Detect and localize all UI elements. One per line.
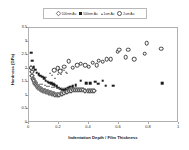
data-point	[102, 79, 105, 82]
x-tick-label: 0.4	[81, 125, 95, 129]
data-point	[105, 84, 108, 87]
chart-legend: 100nm Au 500nm Au 1um Au 2um Au	[43, 8, 147, 19]
data-point	[69, 87, 71, 89]
y-tick-label: 0.5	[13, 106, 27, 110]
data-point	[95, 63, 100, 68]
legend-marker-open-triangle-icon	[101, 13, 103, 15]
y-tick-label: 2	[13, 66, 27, 70]
y-tick-label: 0	[13, 120, 27, 124]
data-point	[117, 47, 122, 52]
data-point	[97, 82, 100, 85]
data-point	[58, 69, 63, 74]
data-point	[66, 59, 71, 64]
data-point	[159, 46, 164, 51]
x-axis-title: Indentation Depth / Film Thickness	[28, 135, 178, 140]
legend-entry-0: 100nm Au	[56, 11, 76, 16]
data-point	[30, 51, 33, 54]
data-point	[109, 57, 114, 62]
data-point	[89, 82, 92, 85]
data-point	[80, 79, 83, 82]
y-tick-label: 1	[13, 93, 27, 97]
data-point	[85, 82, 88, 85]
data-point	[161, 82, 164, 85]
data-point	[132, 57, 137, 62]
legend-entry-3: 2um Au	[117, 11, 134, 16]
legend-entry-1: 500nm Au	[79, 12, 97, 16]
data-point	[74, 84, 77, 87]
legend-marker-filled-square-icon	[79, 12, 82, 15]
data-point	[65, 71, 67, 73]
data-point	[63, 87, 65, 89]
y-tick-label: 3	[13, 39, 27, 43]
y-tick-label: 3.5	[13, 25, 27, 29]
data-point	[51, 74, 53, 76]
legend-marker-open-circle-icon	[117, 11, 122, 16]
x-tick-label: 0.2	[51, 125, 65, 129]
data-point	[54, 77, 56, 79]
data-point	[124, 55, 129, 60]
data-point	[31, 59, 34, 62]
legend-label-0: 100nm Au	[62, 12, 76, 16]
data-point	[61, 87, 63, 89]
data-point	[144, 41, 149, 46]
y-tick-label: 1.5	[13, 79, 27, 83]
data-point	[126, 47, 131, 52]
x-tick-label: 0	[21, 125, 35, 129]
legend-marker-open-diamond-icon	[55, 11, 61, 17]
data-point	[142, 51, 147, 56]
legend-label-2: 1um Au	[104, 12, 115, 16]
data-point	[45, 76, 47, 78]
x-tick-label: 0.8	[141, 125, 155, 129]
data-point	[94, 80, 97, 83]
y-axis-title: Hardness (GPa)	[10, 35, 15, 105]
legend-label-3: 2um Au	[123, 12, 134, 16]
x-tick-label: 1	[171, 125, 185, 129]
data-point	[66, 87, 68, 89]
legend-label-1: 500nm Au	[83, 12, 97, 16]
y-tick-label: 2.5	[13, 52, 27, 56]
x-tick-label: 0.6	[111, 125, 125, 129]
data-point	[112, 85, 115, 88]
scatter-chart: 100nm Au 500nm Au 1um Au 2um Au 00.511.5…	[0, 0, 189, 150]
data-point	[58, 87, 60, 89]
data-point	[62, 64, 67, 69]
legend-entry-2: 1um Au	[101, 12, 115, 16]
plot-area	[28, 27, 178, 122]
